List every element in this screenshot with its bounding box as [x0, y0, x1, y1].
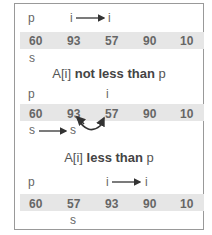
arrows-layer: [0, 0, 212, 235]
swap-arrow-icon: [77, 117, 104, 130]
